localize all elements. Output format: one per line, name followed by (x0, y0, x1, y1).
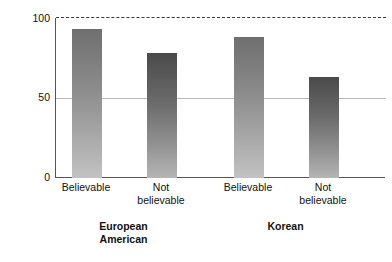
category-label-3: Not believable (277, 181, 369, 206)
group-label-european-american-line-2: American (59, 233, 189, 246)
category-label-3-line-1: Not (277, 181, 369, 194)
bar-chart-figure: Percent syllogisms judged "valid" 100 50… (0, 0, 392, 262)
category-label-1-line-1: Not (115, 181, 207, 194)
bar-european-american-not-believable (147, 53, 177, 178)
bar-european-american-believable (72, 29, 102, 178)
category-label-1: Not believable (115, 181, 207, 206)
bar-korean-believable (234, 37, 264, 178)
y-axis-tick-labels: 100 50 0 (12, 0, 50, 200)
group-label-korean: Korean (221, 220, 351, 233)
group-label-korean-line-1: Korean (221, 220, 351, 233)
group-labels: European American Korean (55, 220, 385, 252)
category-label-3-line-2: believable (277, 194, 369, 207)
plot-area (55, 18, 385, 178)
group-label-european-american: European American (59, 220, 189, 245)
bar-korean-not-believable (309, 77, 339, 178)
y-tick-label-100: 100 (16, 12, 50, 24)
x-axis-category-labels: Believable Not believable Believable Not… (55, 181, 385, 215)
group-label-european-american-line-1: European (59, 220, 189, 233)
y-tick-label-50: 50 (16, 91, 50, 103)
bars-container (56, 18, 386, 178)
category-label-1-line-2: believable (115, 194, 207, 207)
